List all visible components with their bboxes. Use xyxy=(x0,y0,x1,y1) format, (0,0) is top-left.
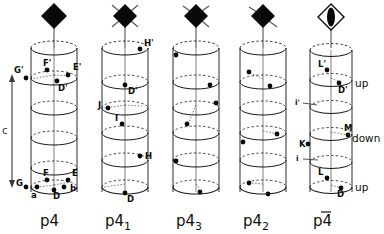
svg-text:p4: p4 xyxy=(313,212,332,230)
column-p4-2: p42 xyxy=(240,4,286,233)
column-p4-1: H' D' J I H D p41 xyxy=(97,4,154,233)
column-p4: F' E' G' D' F E G a b D p4 xyxy=(14,3,81,230)
point-label: F' xyxy=(43,58,51,68)
point-label: K xyxy=(299,139,306,149)
tetrad-screw-axis-symbol xyxy=(112,4,138,28)
point-label: D xyxy=(53,191,60,201)
point-label: a xyxy=(31,190,37,200)
point-label: H xyxy=(145,151,152,161)
point-label: i xyxy=(296,154,299,163)
direction-label-down: down xyxy=(352,132,380,144)
point-label: F xyxy=(43,168,49,178)
point-label: D' xyxy=(58,83,68,93)
column-p4-3: p43 xyxy=(173,4,219,233)
figure-canvas: c xyxy=(0,0,384,234)
point-label: E xyxy=(72,168,78,178)
site-dots xyxy=(106,47,143,196)
direction-label-up: up xyxy=(355,77,369,89)
column-caption: p41 xyxy=(105,212,131,233)
point-label: H' xyxy=(144,38,154,48)
point-label: G xyxy=(16,178,23,188)
point-label: D xyxy=(337,189,344,199)
crystal-symmetry-diagram: c xyxy=(0,0,384,234)
column-caption: p43 xyxy=(176,212,202,233)
tetrad-screw-axis-symbol xyxy=(249,4,277,28)
point-label: i' xyxy=(295,98,300,107)
point-label: L xyxy=(318,167,324,177)
point-label: D' xyxy=(128,86,138,96)
point-label: b xyxy=(70,183,76,193)
inverse-tetrad-axis-symbol xyxy=(318,4,344,30)
point-label: J xyxy=(97,100,101,110)
column-caption: p42 xyxy=(243,212,269,233)
column-caption: p4 xyxy=(313,212,332,230)
point-label: D' xyxy=(338,85,348,95)
column-p4-bar: L' D' i' M K i L D up down up p4 xyxy=(295,4,380,230)
c-axis-double-arrow xyxy=(9,74,15,188)
direction-label-up: up xyxy=(355,181,369,193)
point-label: E' xyxy=(73,62,81,72)
point-label: G' xyxy=(14,65,24,75)
c-axis-label: c xyxy=(2,125,8,136)
tetrad-screw-axis-symbol xyxy=(183,4,209,28)
point-label: D xyxy=(127,194,134,204)
tetrad-axis-symbol xyxy=(41,3,67,29)
point-label: I xyxy=(115,113,118,123)
point-label: L' xyxy=(318,59,326,69)
column-caption: p4 xyxy=(40,212,59,230)
